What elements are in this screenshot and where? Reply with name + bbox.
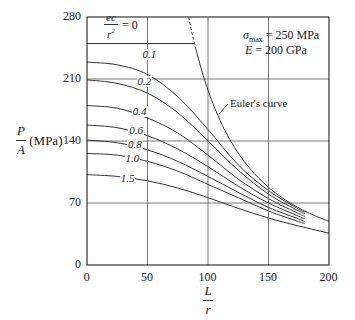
- euler-curve-dashed: [189, 17, 196, 49]
- y-tick-label: 210: [63, 71, 81, 86]
- y-tick-label: 140: [63, 133, 81, 148]
- euler-pointer-arrow: [219, 104, 228, 114]
- y-tick-label: 280: [63, 9, 81, 24]
- y-axis-label: PA (MPa): [16, 123, 62, 158]
- curve-label: 0.6: [128, 125, 144, 136]
- x-tick-label: 0: [84, 270, 90, 285]
- curve-0.1: [87, 62, 305, 212]
- param-E: E = 200 GPa: [245, 43, 307, 58]
- curve-label: 0.2: [137, 76, 153, 87]
- top-annotation-ec: ec r2: [104, 12, 118, 40]
- param-sigma-max: σmax = 250 MPa: [243, 28, 319, 44]
- x-tick-label: 50: [141, 270, 153, 285]
- x-tick-label: 200: [319, 270, 337, 285]
- curve-label: 0.1: [141, 49, 157, 60]
- top-annotation-eq: = 0: [122, 18, 138, 33]
- x-axis-label: Lr: [203, 283, 213, 318]
- x-tick-label: 150: [259, 270, 277, 285]
- curve-label: 1.5: [120, 173, 136, 184]
- curve-label: 0.8: [127, 139, 143, 150]
- curve-1.0: [87, 153, 305, 223]
- curve-label: 1.0: [125, 153, 141, 164]
- y-tick-label: 0: [75, 257, 81, 272]
- curve-0.4: [87, 106, 305, 217]
- y-tick-label: 70: [69, 195, 81, 210]
- curve-label: 0.4: [132, 106, 148, 117]
- euler-curve-label: Euler's curve: [230, 97, 287, 109]
